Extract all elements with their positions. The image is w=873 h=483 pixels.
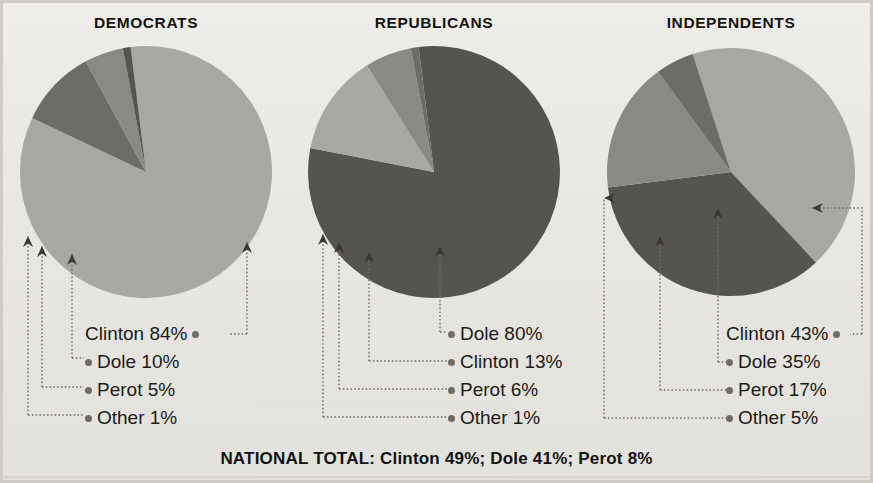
leader-rep-perot-arrow-icon [334, 242, 344, 253]
pie-label-text: Clinton 84% [85, 322, 187, 346]
pie-label-text: Perot 5% [97, 378, 175, 402]
pie-label-row: Clinton 84% [85, 322, 199, 346]
pie-label-row: Other 1% [448, 406, 562, 430]
leader-ind-dole-arrow-icon [713, 208, 723, 219]
pie-slice-dole [308, 46, 560, 298]
pie-label-text: Clinton 13% [460, 350, 562, 374]
label-group-independents: Clinton 43%Dole 35%Perot 17%Other 5% [726, 322, 840, 430]
pie-republicans [308, 46, 560, 298]
pie-slice-perot [86, 48, 146, 172]
pie-label-text: Other 1% [460, 406, 540, 430]
pie-slice-clinton [693, 48, 855, 262]
pie-label-row: Dole 10% [85, 350, 199, 374]
pie-label-text: Clinton 43% [726, 322, 828, 346]
pie-label-text: Dole 10% [97, 350, 179, 374]
leader-dot-icon [726, 387, 733, 394]
leader-dot-icon [726, 359, 733, 366]
pie-title-independents: INDEPENDENTS [667, 14, 796, 32]
leader-dot-icon [448, 415, 455, 422]
leader-rep-clinton-arrow-icon [364, 252, 374, 263]
frame-border-left [0, 0, 3, 483]
pie-label-text: Other 1% [97, 406, 177, 430]
pie-label-text: Dole 80% [460, 322, 542, 346]
leader-dem-perot-arrow-icon [37, 246, 47, 257]
leader-dot-icon [726, 415, 733, 422]
pie-title-democrats: DEMOCRATS [94, 14, 198, 32]
national-total: NATIONAL TOTAL: Clinton 49%; Dole 41%; P… [0, 449, 873, 469]
pie-label-row: Clinton 43% [726, 322, 840, 346]
leader-dot-icon [85, 359, 92, 366]
pie-label-row: Clinton 13% [448, 350, 562, 374]
leader-rep-other-arrow-icon [318, 234, 328, 245]
pie-slice-other [123, 47, 146, 172]
label-group-republicans: Dole 80%Clinton 13%Perot 6%Other 1% [448, 322, 562, 430]
leader-rep-dole-arrow-icon [435, 246, 445, 257]
leader-dot-icon [448, 387, 455, 394]
pie-label-row: Perot 6% [448, 378, 562, 402]
bottom-rule [3, 476, 870, 478]
pie-slice-dole [608, 172, 816, 296]
leader-ind-clinton-arrow-icon [812, 203, 823, 213]
pie-label-row: Dole 80% [448, 322, 562, 346]
leader-ind-clinton [812, 208, 862, 334]
pie-slice-other [411, 47, 434, 172]
leader-dem-other-arrow-icon [23, 236, 33, 247]
pie-label-text: Dole 35% [738, 350, 820, 374]
pie-slice-perot [367, 48, 434, 172]
pie-label-text: Perot 17% [738, 378, 827, 402]
pie-slice-dole [32, 61, 146, 172]
frame-border-top [0, 0, 873, 3]
pie-title-republicans: REPUBLICANS [375, 14, 494, 32]
leader-dot-icon [85, 387, 92, 394]
pie-label-row: Dole 35% [726, 350, 840, 374]
pie-label-row: Perot 5% [85, 378, 199, 402]
national-total-text: NATIONAL TOTAL: Clinton 49%; Dole 41%; P… [220, 449, 652, 468]
pie-independents [607, 48, 855, 296]
chart-page: DEMOCRATSREPUBLICANSINDEPENDENTS Clinton… [0, 0, 873, 483]
pie-slice-other [658, 54, 731, 172]
pie-label-row: Other 1% [85, 406, 199, 430]
pie-slice-clinton [310, 65, 434, 172]
leader-dot-icon [192, 331, 199, 338]
leader-dem-dole-arrow-icon [67, 254, 77, 265]
leader-dot-icon [448, 331, 455, 338]
leader-dot-icon [448, 359, 455, 366]
leader-dot-icon [833, 331, 840, 338]
leader-ind-other-arrow-icon [604, 193, 615, 203]
pie-label-text: Other 5% [738, 406, 818, 430]
label-group-democrats: Clinton 84%Dole 10%Perot 5%Other 1% [85, 322, 199, 430]
leader-dem-clinton-arrow-icon [242, 242, 252, 253]
pie-slice-clinton [20, 46, 272, 298]
leader-dot-icon [85, 415, 92, 422]
pie-democrats [20, 46, 272, 298]
leader-ind-perot-arrow-icon [655, 236, 665, 247]
pie-label-row: Other 5% [726, 406, 840, 430]
pie-slice-perot [607, 72, 731, 188]
pie-label-text: Perot 6% [460, 378, 538, 402]
pie-label-row: Perot 17% [726, 378, 840, 402]
